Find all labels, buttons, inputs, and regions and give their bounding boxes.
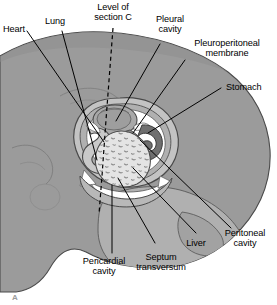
label-pericardial-cavity: Pericardial cavity — [73, 256, 135, 276]
label-pleural-cavity: Pleural cavity — [146, 14, 194, 34]
label-septum-transversum: Septum transversum — [129, 252, 193, 272]
label-peritoneal-cavity: Peritoneal cavity — [216, 228, 274, 248]
label-level-of-section-c: Level of section C — [81, 2, 145, 22]
label-stomach: Stomach — [226, 82, 262, 92]
anatomical-figure: Heart Lung Level of section C Pleural ca… — [0, 0, 277, 305]
label-lung: Lung — [45, 16, 65, 26]
label-liver: Liver — [178, 238, 214, 248]
label-heart: Heart — [3, 24, 25, 34]
panel-letter-a: A — [12, 293, 18, 302]
label-pleuroperitoneal-membrane: Pleuroperitoneal membrane — [180, 38, 274, 58]
